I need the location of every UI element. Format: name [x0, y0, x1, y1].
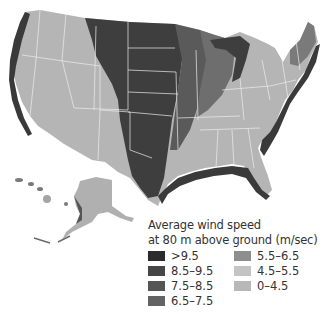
legend-label: 7.5–8.5 — [171, 279, 213, 293]
legend-label: 4.5–5.5 — [257, 264, 299, 278]
legend-item: 4.5–5.5 — [234, 264, 299, 277]
legend-item: >9.5 — [148, 249, 199, 262]
alaska-landmass — [62, 177, 134, 240]
legend-label: 5.5–6.5 — [257, 249, 299, 263]
hawaii — [15, 178, 68, 206]
legend-label: 0–4.5 — [257, 279, 288, 293]
legend-item: 5.5–6.5 — [234, 249, 299, 262]
legend-swatch — [148, 281, 165, 291]
legend-item: 6.5–7.5 — [148, 294, 213, 307]
legend-swatch — [234, 266, 251, 276]
legend-label: 8.5–9.5 — [171, 264, 213, 278]
map-legend: Average wind speed at 80 m above ground … — [148, 218, 328, 248]
legend-swatch — [148, 251, 165, 261]
legend-title-line1: Average wind speed — [148, 218, 328, 233]
legend-swatch — [234, 251, 251, 261]
legend-label: 6.5–7.5 — [171, 294, 213, 308]
legend-item: 8.5–9.5 — [148, 264, 213, 277]
legend-swatch — [148, 296, 165, 306]
legend-label: >9.5 — [171, 249, 199, 263]
legend-item: 7.5–8.5 — [148, 279, 213, 292]
legend-swatch — [234, 281, 251, 291]
legend-title-line2: at 80 m above ground (m/sec) — [148, 233, 328, 248]
legend-swatch — [148, 266, 165, 276]
legend-item: 0–4.5 — [234, 279, 288, 292]
